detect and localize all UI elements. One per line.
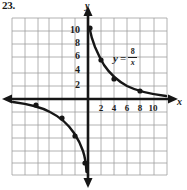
- x-tick-label-8: 8: [134, 104, 146, 113]
- point-2-4: [98, 57, 103, 62]
- y-axis-bottom-arrowhead: [84, 178, 93, 188]
- point-1-8: [87, 25, 92, 30]
- x-axis-label: x: [177, 96, 182, 107]
- x-tick-label-6: 6: [121, 104, 133, 113]
- x-axis-left-arrowhead: [2, 95, 12, 104]
- grid-horizontal-lines: [12, 18, 167, 175]
- equation-fraction: 8 x: [128, 48, 137, 67]
- point-neg4-neg2: [59, 115, 64, 120]
- point-4-2: [111, 76, 116, 81]
- point-neg1-neg8: [82, 160, 87, 165]
- point-8-1: [137, 88, 142, 93]
- y-tick-label-2: 2: [64, 80, 80, 90]
- point-neg2-neg4: [72, 133, 77, 138]
- equation-annotation: y = 8 x: [113, 48, 137, 67]
- y-tick-label-4: 4: [64, 65, 80, 75]
- x-tick-label-2: 2: [95, 104, 107, 113]
- coordinate-graph: [0, 0, 187, 190]
- grid-vertical-lines: [12, 18, 167, 175]
- graph-svg: [0, 0, 187, 190]
- y-tick-label-8: 8: [64, 38, 80, 48]
- x-tick-label-4: 4: [108, 104, 120, 113]
- equation-numerator: 8: [131, 48, 135, 57]
- point-neg8-neg1: [33, 102, 38, 107]
- y-tick-label-6: 6: [64, 51, 80, 61]
- equation-lhs: y: [113, 52, 118, 64]
- equation-denominator: x: [131, 58, 135, 67]
- y-tick-label-10: 10: [64, 25, 80, 35]
- y-axis-label: y: [85, 0, 89, 11]
- figure-container: 23.: [0, 0, 187, 190]
- x-tick-label-10: 10: [146, 104, 160, 113]
- equation-equals-sign: =: [120, 52, 126, 64]
